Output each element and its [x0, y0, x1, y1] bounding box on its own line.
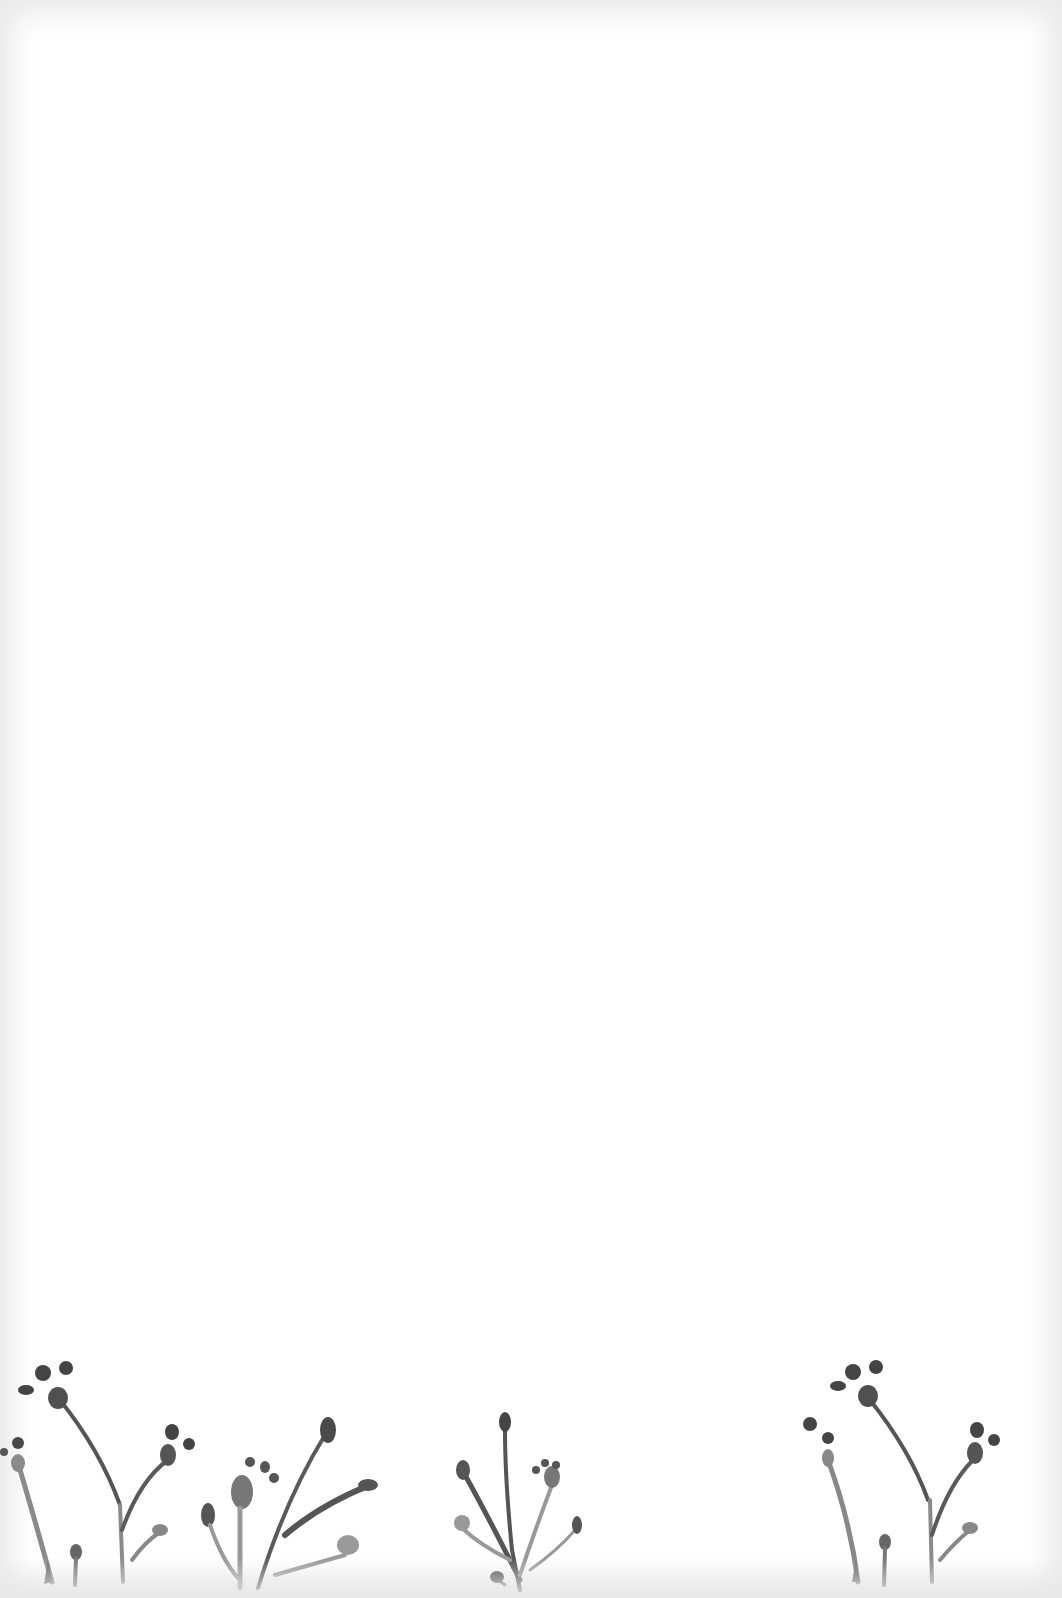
scan-edge-shadow	[0, 1558, 1062, 1598]
stationery-page	[0, 0, 1062, 1598]
sprig-group-left	[0, 1361, 195, 1585]
sprig-group-right	[803, 1360, 1000, 1585]
botanical-illustration	[0, 1320, 1062, 1598]
